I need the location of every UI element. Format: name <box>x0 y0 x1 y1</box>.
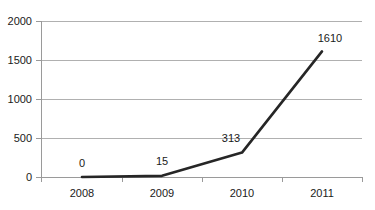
line-chart: 2000 1500 1000 500 0 2008 2009 2010 2011… <box>0 0 375 210</box>
data-label-2008: 0 <box>57 158 107 169</box>
data-label-2010: 313 <box>206 133 256 144</box>
data-label-1610: 1610 <box>305 33 355 44</box>
data-label-2009: 15 <box>137 156 187 167</box>
